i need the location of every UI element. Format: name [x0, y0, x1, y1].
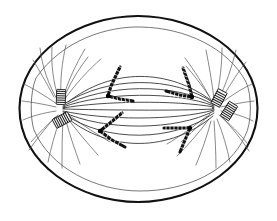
kinetochore [188, 126, 192, 130]
kinetochore [190, 95, 194, 99]
kinetochore [106, 94, 110, 98]
left-centriole-vertical [56, 89, 66, 104]
cell-division-diagram: Anaphase of cell division animal cell un… [0, 0, 277, 221]
right-pole-point [212, 107, 214, 109]
diagram-canvas [0, 0, 277, 221]
cell-membrane [19, 16, 257, 202]
cell-membrane-group [19, 16, 257, 202]
left-pole-point [63, 107, 65, 109]
kinetochore [98, 129, 102, 133]
